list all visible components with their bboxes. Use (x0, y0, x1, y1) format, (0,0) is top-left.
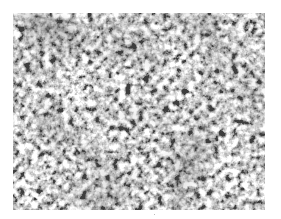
micrograph-image (13, 13, 265, 210)
micrograph-texture (13, 13, 265, 210)
speck (154, 214, 155, 215)
